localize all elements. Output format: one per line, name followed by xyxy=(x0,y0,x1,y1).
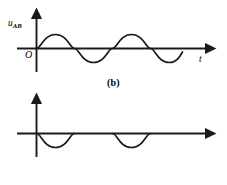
plot-c xyxy=(0,90,227,185)
figure-panel-c: uba O t (c) xyxy=(0,90,227,185)
waveform-hump-2-uba xyxy=(113,134,151,148)
y-axis-label-uab-sub: AB xyxy=(13,22,22,29)
figure-panel-b: uAB O t (b) xyxy=(0,0,227,95)
caption-b: (b) xyxy=(0,77,227,88)
origin-label-b: O xyxy=(25,50,32,60)
waveform-hump-1-uba xyxy=(37,134,75,148)
y-axis-label-uab: uAB xyxy=(8,19,22,29)
x-axis-label-b: t xyxy=(199,55,202,65)
